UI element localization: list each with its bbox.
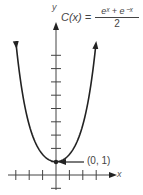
- formula-numerator: eˣ + e⁻ˣ: [95, 6, 139, 18]
- formula-denominator: 2: [95, 18, 139, 30]
- formula-lhs: C(x) =: [61, 11, 91, 23]
- vertex-annotation: (0, 1): [87, 155, 110, 166]
- formula-fraction: eˣ + e⁻ˣ 2: [95, 6, 139, 30]
- catenary-chart: y x C(x) = eˣ + e⁻ˣ 2 (0, 1): [0, 0, 143, 195]
- x-axis-label: x: [117, 169, 122, 179]
- vertex-point: [54, 160, 58, 164]
- y-axis-label: y: [52, 2, 57, 12]
